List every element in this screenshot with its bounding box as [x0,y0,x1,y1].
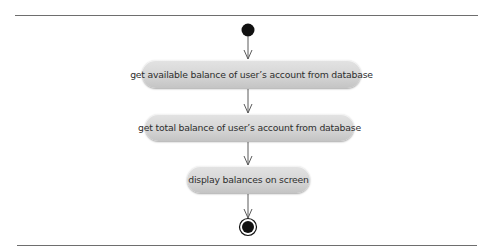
action-display-balances: display balances on screen [187,166,310,193]
action-get-available-balance: get available balance of user’s account … [142,60,361,88]
edge-arrow [244,142,252,165]
action-get-total-balance: get total balance of user’s account from… [145,114,354,141]
action-label: get available balance of user’s account … [130,69,373,80]
final-node [240,219,257,236]
action-label: get total balance of user’s account from… [138,122,361,133]
initial-node [242,24,255,37]
action-label: display balances on screen [188,174,309,185]
edge-arrow [244,89,252,113]
edge-arrow [244,36,252,59]
edge-arrow [244,194,252,218]
